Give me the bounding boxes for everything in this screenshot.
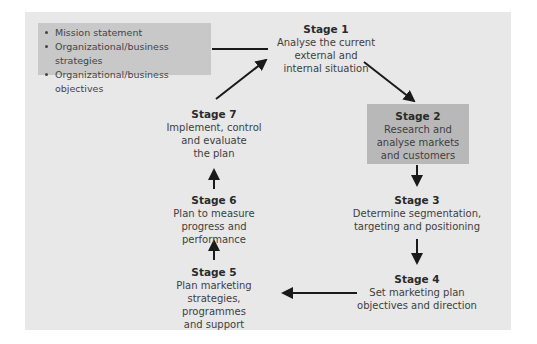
stage-title: Stage 1 [268, 23, 384, 36]
stage-description: Plan marketing strategies, programmes an… [154, 279, 274, 331]
stage-description: Implement, control and evaluate the plan [164, 121, 264, 160]
stage-2: Stage 2 Research and analyse markets and… [367, 110, 469, 162]
stage-title: Stage 3 [347, 194, 487, 207]
stage-title: Stage 4 [355, 273, 479, 286]
stage-description: Analyse the current external and interna… [268, 36, 384, 75]
stage-description: Set marketing plan objectives and direct… [355, 286, 479, 312]
stage-1: Stage 1 Analyse the current external and… [268, 23, 384, 75]
stage-title: Stage 6 [150, 194, 278, 207]
stage-description: Plan to measure progress and performance [150, 207, 278, 246]
stage-7: Stage 7 Implement, control and evaluate … [164, 108, 264, 160]
stage-3: Stage 3 Determine segmentation, targetin… [347, 194, 487, 233]
arrow-stage7-to-stage1 [216, 60, 266, 99]
stage-4: Stage 4 Set marketing plan objectives an… [355, 273, 479, 312]
stage-title: Stage 2 [367, 110, 469, 123]
stage-6: Stage 6 Plan to measure progress and per… [150, 194, 278, 246]
stage-5: Stage 5 Plan marketing strategies, progr… [154, 266, 274, 331]
stage-title: Stage 7 [164, 108, 264, 121]
stage-title: Stage 5 [154, 266, 274, 279]
stage-description: Research and analyse markets and custome… [367, 123, 469, 162]
stage-description: Determine segmentation, targeting and po… [347, 207, 487, 233]
